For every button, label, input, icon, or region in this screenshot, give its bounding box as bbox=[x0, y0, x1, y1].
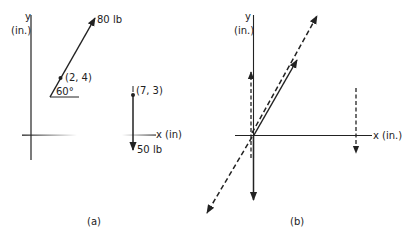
force-diagram: y (in.) x (in) 80 lb (2, 4) 60° (7, 3) 5… bbox=[0, 0, 409, 239]
panel-a: y (in.) x (in) 80 lb (2, 4) 60° (7, 3) 5… bbox=[11, 11, 182, 227]
caption-a: (a) bbox=[87, 216, 101, 227]
x-axis-label-b: x (in.) bbox=[373, 130, 402, 141]
point-2-4-label: (2, 4) bbox=[65, 72, 92, 83]
solid-force-arrow-b bbox=[254, 60, 297, 135]
dashed-resultant-line-lower bbox=[207, 137, 252, 213]
caption-b: (b) bbox=[290, 216, 304, 227]
angle-label-60: 60° bbox=[56, 86, 74, 97]
x-axis-a-right bbox=[122, 135, 156, 136]
x-axis-label-a: x (in) bbox=[156, 129, 182, 140]
dashed-resultant-line bbox=[252, 16, 317, 133]
panel-b: y (in.) x (in.) (b) bbox=[207, 11, 402, 227]
y-axis-label-b: y bbox=[245, 11, 251, 22]
y-axis-label-a: y bbox=[25, 11, 31, 22]
y-axis-unit-b: (in.) bbox=[234, 25, 254, 36]
point-2-4 bbox=[59, 76, 63, 80]
point-7-3-label: (7, 3) bbox=[136, 85, 163, 96]
y-axis-unit-a: (in.) bbox=[11, 25, 31, 36]
point-7-3 bbox=[131, 93, 135, 97]
x-axis-a-left bbox=[22, 135, 77, 136]
force-80lb-label: 80 lb bbox=[97, 14, 122, 25]
force-50lb-label: 50 lb bbox=[137, 144, 162, 155]
